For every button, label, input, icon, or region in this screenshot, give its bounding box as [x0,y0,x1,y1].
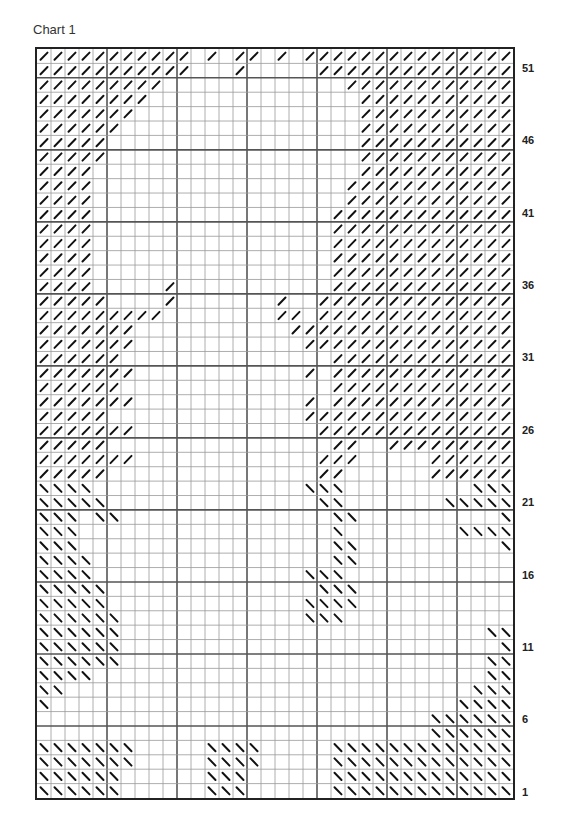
row-label: 11 [522,641,534,653]
row-label: 26 [522,424,534,436]
row-label: 36 [522,279,534,291]
stitch-grid [35,47,515,800]
row-label: 51 [522,62,534,74]
row-label: 31 [522,351,534,363]
stitch-grid-canvas [37,49,513,798]
row-label: 41 [522,207,534,219]
row-label: 16 [522,569,534,581]
row-label: 6 [522,713,528,725]
row-label: 21 [522,496,534,508]
row-label: 46 [522,134,534,146]
row-label: 1 [522,786,528,798]
chart-title: Chart 1 [33,22,76,37]
